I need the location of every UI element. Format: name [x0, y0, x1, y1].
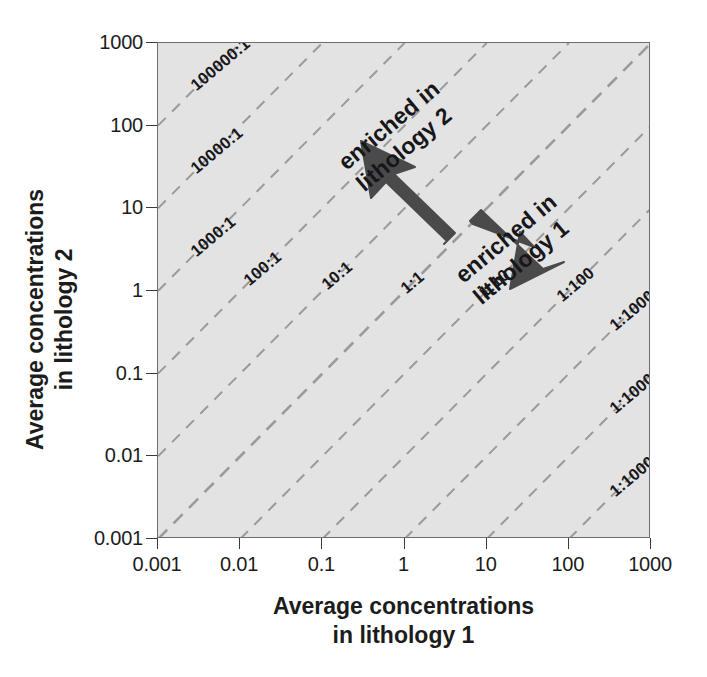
y-axis-title: Average concentrations in lithology 2	[21, 71, 80, 567]
x-axis-tick	[157, 538, 158, 549]
y-axis-tick-label: 1	[132, 279, 143, 302]
y-axis-tick-label: 0.001	[94, 527, 143, 550]
y-axis-tick	[146, 290, 157, 291]
x-axis-tick-label: 1	[398, 553, 409, 576]
y-axis-tick-label: 1000	[99, 31, 143, 54]
x-axis-tick	[650, 538, 651, 549]
x-axis-tick	[568, 538, 569, 549]
y-axis-title-wrapper: Average concentrations in lithology 2	[21, 71, 80, 567]
x-axis-title: Average concentrations in lithology 1	[157, 592, 650, 651]
y-axis-tick-label: 0.1	[116, 361, 143, 384]
x-axis-tick-label: 0.1	[308, 553, 335, 576]
x-axis-title-line2: in lithology 1	[157, 621, 650, 650]
y-axis-tick	[146, 373, 157, 374]
y-axis-tick-label: 0.01	[105, 444, 143, 467]
y-axis-tick	[146, 538, 157, 539]
y-axis-tick-label: 100	[110, 113, 143, 136]
y-axis-tick	[146, 125, 157, 126]
x-axis-tick	[321, 538, 322, 549]
ratio-line	[158, 43, 322, 208]
x-axis-tick-label: 1000	[628, 553, 672, 576]
figure-root: 100000:110000:11000:1100:110:11:11:101:1…	[0, 0, 707, 677]
x-axis-title-line1: Average concentrations	[157, 592, 650, 621]
x-axis-tick-label: 0.01	[220, 553, 258, 576]
x-axis-tick-label: 0.001	[132, 553, 181, 576]
y-axis-tick	[146, 455, 157, 456]
plot-area: 100000:110000:11000:1100:110:11:11:101:1…	[157, 42, 650, 538]
ratio-line	[240, 126, 650, 538]
x-axis-tick	[404, 538, 405, 549]
x-axis-tick-label: 100	[551, 553, 584, 576]
y-axis-tick-label: 10	[121, 196, 143, 219]
y-axis-title-line2: in lithology 2	[50, 71, 79, 567]
x-axis-tick	[239, 538, 240, 549]
x-axis-tick-label: 10	[475, 553, 497, 576]
y-axis-title-line1: Average concentrations	[21, 71, 50, 567]
x-axis-tick	[486, 538, 487, 549]
y-axis-tick	[146, 207, 157, 208]
y-axis-tick	[146, 42, 157, 43]
